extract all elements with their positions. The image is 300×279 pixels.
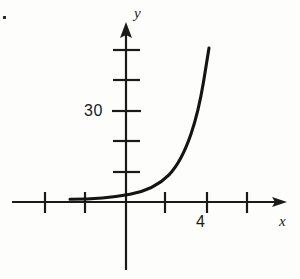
exponential-curve — [70, 48, 209, 199]
coordinate-plot — [0, 0, 300, 279]
y-tick-label-30: 30 — [84, 103, 103, 119]
x-tick-label-4: 4 — [196, 214, 205, 230]
y-axis-label: y — [134, 6, 141, 21]
graph-figure: y x 30 4 — [0, 0, 300, 279]
x-axis-label: x — [279, 214, 286, 229]
